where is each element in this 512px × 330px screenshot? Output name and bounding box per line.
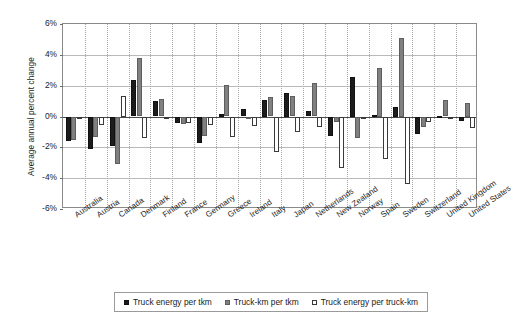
bar-group — [216, 24, 238, 207]
bar — [115, 117, 120, 165]
bar — [137, 58, 142, 117]
bar — [443, 100, 448, 117]
bar — [66, 117, 71, 142]
bar — [197, 117, 202, 143]
bar — [93, 117, 98, 138]
bar — [399, 38, 404, 117]
bar-group — [281, 24, 303, 207]
bar-group — [325, 24, 347, 207]
bar — [181, 117, 186, 125]
bar — [99, 117, 104, 125]
bar — [164, 117, 169, 119]
bar — [415, 117, 420, 135]
bar — [284, 93, 289, 116]
bar-group — [303, 24, 325, 207]
bar — [426, 117, 431, 122]
legend-label: Truck energy per truck-km — [321, 297, 418, 307]
chart-legend: Truck energy per tkmTruck-km per tkmTruc… — [114, 292, 428, 312]
bar — [355, 117, 360, 139]
bar — [306, 111, 311, 116]
bar — [274, 117, 279, 152]
bar — [224, 85, 229, 117]
bar — [262, 100, 267, 116]
bar-group — [412, 24, 434, 207]
bar — [186, 117, 191, 123]
bar — [339, 117, 344, 169]
bar — [208, 117, 213, 125]
bar-group — [63, 24, 85, 207]
bar — [290, 96, 295, 116]
bar — [268, 97, 273, 116]
bar — [437, 116, 442, 118]
bar — [295, 117, 300, 132]
bar — [88, 117, 93, 149]
legend-item: Truck-km per tkm — [225, 297, 299, 307]
y-tick-label: 6% — [17, 18, 57, 28]
bar — [405, 117, 410, 184]
bar — [121, 96, 126, 117]
bar — [328, 117, 333, 136]
bar — [202, 117, 207, 136]
bar-group — [238, 24, 260, 207]
bar — [312, 83, 317, 117]
bar — [377, 68, 382, 117]
bar — [465, 103, 470, 117]
bar — [230, 117, 235, 138]
legend-label: Truck-km per tkm — [234, 297, 299, 307]
bar — [159, 99, 164, 117]
bar — [142, 117, 147, 139]
bar-group — [85, 24, 107, 207]
bar — [77, 117, 82, 119]
bar — [71, 117, 76, 141]
legend-item: Truck energy per tkm — [124, 297, 212, 307]
y-tick-label: 0% — [17, 111, 57, 121]
y-tick-mark — [60, 209, 63, 210]
filled-gray-square-icon — [225, 300, 230, 305]
bar — [470, 117, 475, 129]
y-tick-label: -6% — [17, 203, 57, 213]
bar — [372, 115, 377, 117]
bar — [110, 117, 115, 146]
bar — [350, 77, 355, 116]
bar-group — [434, 24, 456, 207]
y-tick-label: -2% — [17, 141, 57, 151]
bar-group — [456, 24, 478, 207]
bar-group — [369, 24, 391, 207]
bar — [383, 117, 388, 159]
bar — [246, 117, 251, 119]
legend-item: Truck energy per truck-km — [312, 297, 418, 307]
y-tick-label: 4% — [17, 49, 57, 59]
filled-black-square-icon — [124, 300, 129, 305]
bar-group — [260, 24, 282, 207]
bar — [421, 117, 426, 127]
bar-group — [129, 24, 151, 207]
bar — [153, 101, 158, 116]
legend-label: Truck energy per tkm — [133, 297, 212, 307]
bar — [361, 117, 366, 119]
bar-group — [150, 24, 172, 207]
bar-group — [172, 24, 194, 207]
bar — [219, 114, 224, 116]
bar — [393, 107, 398, 116]
bar-group — [194, 24, 216, 207]
bar — [317, 117, 322, 128]
bar — [175, 117, 180, 124]
plot-area — [62, 23, 477, 208]
bar — [241, 109, 246, 117]
open-square-icon — [312, 300, 317, 305]
y-tick-label: -4% — [17, 172, 57, 182]
bar-group — [347, 24, 369, 207]
y-tick-label: 2% — [17, 80, 57, 90]
bar — [131, 80, 136, 116]
bar — [334, 117, 339, 122]
bar — [448, 117, 453, 119]
bar-group — [391, 24, 413, 207]
bar — [252, 117, 257, 126]
bar-group — [107, 24, 129, 207]
bar — [459, 117, 464, 122]
